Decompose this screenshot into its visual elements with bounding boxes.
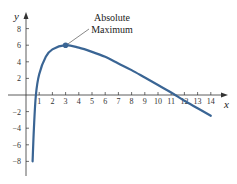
absolute-maximum-point [63, 42, 69, 48]
x-tick-label: 9 [143, 97, 147, 106]
axes [8, 12, 228, 176]
x-tick-label: 13 [194, 97, 202, 106]
y-tick-label: −2 [12, 108, 21, 117]
chart: 1234567891011121314−8−6−4−22468 Absolute… [0, 0, 237, 184]
x-tick-label: 5 [90, 97, 94, 106]
x-tick-label: 11 [167, 97, 175, 106]
x-axis-arrow-icon [221, 93, 228, 98]
y-tick-label: −6 [12, 141, 21, 150]
y-tick-label: 2 [17, 74, 21, 83]
x-tick-label: 14 [207, 97, 215, 106]
y-tick-label: 4 [17, 58, 21, 67]
x-axis-label: x [223, 98, 229, 110]
y-axis-arrow-icon [24, 12, 29, 19]
x-tick-label: 2 [50, 97, 54, 106]
x-tick-label: 10 [154, 97, 162, 106]
y-tick-label: −4 [12, 124, 21, 133]
annotation-label-line2: Maximum [91, 24, 133, 35]
y-tick-label: −8 [12, 157, 21, 166]
x-tick-label: 3 [64, 97, 68, 106]
x-tick-label: 4 [77, 97, 81, 106]
annotation-label-line1: Absolute [94, 12, 131, 23]
y-axis-label: y [13, 10, 19, 22]
y-tick-label: 8 [17, 25, 21, 34]
x-tick-label: 8 [130, 97, 134, 106]
y-tick-label: 6 [17, 41, 21, 50]
x-tick-label: 7 [116, 97, 120, 106]
annotation-leader-line [68, 29, 89, 44]
ticks: 1234567891011121314−8−6−4−22468 [12, 25, 214, 167]
x-tick-label: 1 [37, 97, 41, 106]
x-tick-label: 6 [103, 97, 107, 106]
